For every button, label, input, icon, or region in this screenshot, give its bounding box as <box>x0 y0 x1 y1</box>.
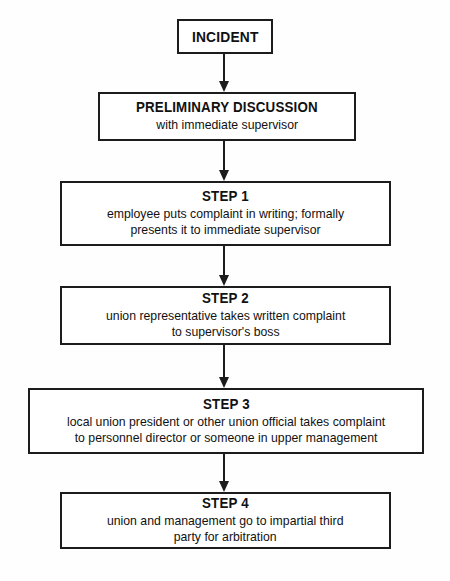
down-arrow-icon-step3-to-step4 <box>222 454 227 492</box>
node-body: employee puts complaint in writing; form… <box>107 206 344 239</box>
arrow-shaft <box>223 141 225 171</box>
arrow-shaft <box>223 54 225 82</box>
node-title: STEP 1 <box>202 188 249 205</box>
arrow-head <box>219 377 229 388</box>
down-arrow-icon-incident-to-preliminary <box>222 54 227 92</box>
node-title: INCIDENT <box>192 28 259 45</box>
arrow-shaft <box>223 246 225 276</box>
node-title: STEP 3 <box>203 396 250 413</box>
node-body: union representative takes written compl… <box>106 308 345 341</box>
arrow-head <box>219 81 229 92</box>
node-body: union and management go to impartial thi… <box>107 513 344 546</box>
flowchart-node-step-3: STEP 3 local union president or other un… <box>28 388 424 454</box>
node-title: PRELIMINARY DISCUSSION <box>136 99 318 116</box>
grievance-procedure-flowchart: INCIDENT PRELIMINARY DISCUSSION with imm… <box>0 0 450 581</box>
flowchart-node-step-1: STEP 1 employee puts complaint in writin… <box>60 181 391 246</box>
arrow-head <box>219 275 229 286</box>
down-arrow-icon-step2-to-step3 <box>222 345 227 388</box>
down-arrow-icon-preliminary-to-step1 <box>222 141 227 181</box>
down-arrow-icon-step1-to-step2 <box>222 246 227 286</box>
flowchart-node-preliminary-discussion: PRELIMINARY DISCUSSION with immediate su… <box>98 92 356 141</box>
flowchart-node-step-2: STEP 2 union representative takes writte… <box>60 286 391 345</box>
node-body: local union president or other union off… <box>67 414 385 447</box>
node-title: STEP 2 <box>202 290 249 307</box>
node-body: with immediate supervisor <box>156 117 298 133</box>
arrow-shaft <box>223 345 225 378</box>
flowchart-node-step-4: STEP 4 union and management go to impart… <box>60 492 391 549</box>
arrow-head <box>219 170 229 181</box>
arrow-shaft <box>223 454 225 482</box>
node-title: STEP 4 <box>202 495 249 512</box>
arrow-head <box>219 481 229 492</box>
flowchart-node-incident: INCIDENT <box>177 19 273 54</box>
